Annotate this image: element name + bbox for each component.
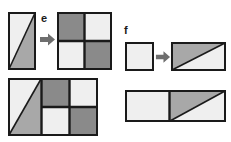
figure-e-target-tile: [57, 12, 112, 70]
combined-figure-e-svg: [8, 78, 98, 136]
figure-f-source-tile: [125, 42, 154, 71]
square-body: [126, 43, 153, 70]
figure-f-target-tile: [171, 42, 226, 71]
plain-square-svg: [125, 42, 154, 71]
arrow-right-icon-e: [39, 31, 56, 48]
diagonal-split-rectangle-svg: [8, 12, 36, 70]
figure-canvas: e f: [0, 0, 231, 142]
arrow-shape: [40, 34, 55, 46]
cell-bottom-left: [58, 42, 84, 69]
combined-figure-f-svg: [125, 90, 226, 122]
cell-bottom-right: [70, 108, 97, 135]
arrow-shape: [156, 51, 170, 62]
label-f: f: [124, 25, 128, 36]
figure-e-source-tile: [8, 12, 36, 70]
cell-top-right: [85, 13, 111, 40]
combined-figure-f: [125, 90, 226, 122]
arrow-right-icon-f: [155, 49, 171, 65]
cell-top-left: [42, 79, 69, 106]
cell-top-left: [58, 13, 84, 40]
left-plain-square: [126, 91, 169, 121]
combined-figure-e: [8, 78, 98, 136]
checkerboard-square-svg: [57, 12, 112, 70]
label-e: e: [41, 13, 47, 24]
arrow-right-glyph: [155, 49, 171, 65]
cell-top-right: [70, 79, 97, 106]
diagonal-split-wide-rectangle-svg: [171, 42, 226, 71]
cell-bottom-left: [42, 108, 69, 135]
cell-bottom-right: [85, 42, 111, 69]
arrow-right-glyph: [39, 31, 56, 48]
